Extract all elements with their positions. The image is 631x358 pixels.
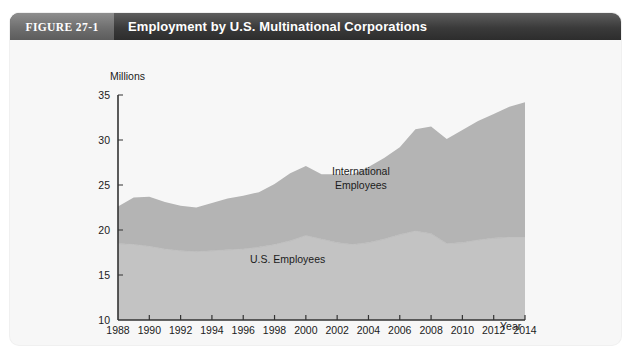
figure-number-tag: FIGURE 27-1 — [10, 13, 114, 40]
figure-card: FIGURE 27-1 Employment by U.S. Multinati… — [10, 13, 621, 345]
figure-root: FIGURE 27-1 Employment by U.S. Multinati… — [0, 0, 631, 358]
x-axis-tick-label: 1996 — [232, 324, 256, 336]
y-axis-tick-label: 25 — [98, 179, 110, 191]
x-axis-tick-label: 1994 — [200, 324, 224, 336]
x-axis-tick-label: 2004 — [357, 324, 381, 336]
area-chart: 1015202530351988199019921994199619982000… — [10, 40, 621, 345]
x-axis-tick-label: 2010 — [451, 324, 475, 336]
area-international-employees — [118, 102, 525, 251]
x-axis-tick-label: 2006 — [388, 324, 412, 336]
y-axis-tick-label: 35 — [98, 89, 110, 101]
chart-plot-area: Millions 1015202530351988199019921994199… — [10, 40, 621, 345]
figure-title: Employment by U.S. Multinational Corpora… — [114, 13, 621, 40]
x-axis-tick-label: 1992 — [169, 324, 193, 336]
x-axis-tick-label: 1998 — [263, 324, 287, 336]
x-axis-title: Year — [500, 320, 521, 332]
x-axis-tick-label: 2000 — [294, 324, 318, 336]
x-axis-tick-label: 1990 — [138, 324, 162, 336]
series-label-international: International Employees — [332, 164, 390, 192]
figure-header-bar: FIGURE 27-1 Employment by U.S. Multinati… — [10, 13, 621, 40]
series-label-us: U.S. Employees — [250, 252, 325, 266]
y-axis-tick-label: 15 — [98, 269, 110, 281]
y-axis-tick-label: 30 — [98, 134, 110, 146]
y-axis-tick-label: 20 — [98, 224, 110, 236]
x-axis-tick-label: 2002 — [325, 324, 349, 336]
x-axis-tick-label: 2008 — [419, 324, 443, 336]
x-axis-tick-label: 1988 — [106, 324, 130, 336]
y-axis-unit-label: Millions — [110, 70, 145, 82]
